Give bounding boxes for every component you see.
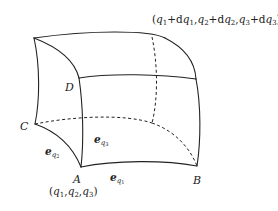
edge-top-left-to-D	[34, 38, 79, 78]
point-D-label: D	[64, 81, 74, 94]
edge-top-right-curve	[165, 38, 196, 79]
edge-A-to-B	[81, 162, 197, 167]
edge-top-back	[34, 32, 165, 38]
edge-hidden-inner-to-B	[152, 123, 197, 166]
edge-right-to-B	[196, 79, 200, 166]
point-B-label: B	[192, 174, 201, 187]
point-C-label: C	[20, 120, 29, 133]
edge-left-back-to-C	[34, 38, 39, 124]
vector-e-q3-label: eq3	[94, 133, 108, 147]
vector-e-q2-label: eq2	[45, 145, 59, 159]
far-corner-label: (q1+dq1,q2+dq2,q3+dq3)	[152, 13, 278, 27]
edge-D-to-right	[79, 75, 196, 79]
origin-label: (q1,q2,q3)	[49, 185, 98, 199]
edge-D-to-A	[79, 78, 83, 167]
edge-hidden-vertical	[152, 37, 157, 123]
volume-element-diagram: (q1+dq1,q2+dq2,q3+dq3) D C A B (q1,q2,q3…	[0, 0, 278, 211]
hidden-edges	[35, 37, 197, 166]
solid-edges	[34, 32, 200, 167]
edge-hidden-C-to-inner	[35, 117, 152, 124]
edge-C-to-A	[35, 124, 81, 167]
vector-e-q1-label: eq1	[110, 171, 124, 185]
